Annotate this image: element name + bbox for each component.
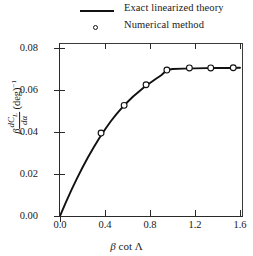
x-tick-label: 1.6 [223, 219, 253, 230]
y-tick-label: 0.00 [4, 210, 38, 221]
x-axis-title-beta: β [110, 240, 115, 252]
y-tick-label: 0.04 [4, 126, 38, 137]
legend-label: Exact linearized theory [124, 2, 224, 13]
data-point-marker [230, 65, 236, 71]
legend: Exact linearized theory Numerical method [70, 4, 250, 34]
legend-label: Numerical method [124, 19, 204, 30]
data-point-marker [208, 65, 214, 71]
y-tick-label: 0.06 [4, 84, 38, 95]
x-axis-title: β cot Λ [0, 240, 253, 252]
legend-entry-exact-linearized-theory: Exact linearized theory [70, 4, 250, 18]
data-point-marker [98, 130, 104, 136]
x-tick-label: 1.2 [178, 219, 212, 230]
y-tick-label: 0.02 [4, 168, 38, 179]
data-point-marker [121, 102, 127, 108]
data-point-marker [164, 67, 170, 73]
x-axis-title-lambda: Λ [135, 240, 143, 252]
legend-entry-numerical-method: Numerical method [70, 21, 250, 35]
legend-line-swatch-icon [80, 10, 114, 12]
exact-linearized-theory-curve [60, 68, 240, 216]
figure-canvas: Exact linearized theory Numerical method… [0, 0, 253, 256]
legend-open-circle-swatch-icon [93, 25, 98, 30]
x-tick-label: 0.0 [43, 219, 77, 230]
chart-svg [60, 44, 242, 216]
data-point-marker [186, 65, 192, 71]
x-axis-title-cot: cot [119, 240, 132, 252]
x-tick-label: 0.4 [88, 219, 122, 230]
x-tick-label: 0.8 [133, 219, 167, 230]
numerical-method-points [98, 65, 236, 136]
plot-area: 0.00 0.02 0.04 0.06 0.08 0.0 0.4 0.8 1.2… [59, 43, 243, 217]
data-point-marker [143, 82, 149, 88]
y-tick-label: 0.08 [4, 42, 38, 53]
